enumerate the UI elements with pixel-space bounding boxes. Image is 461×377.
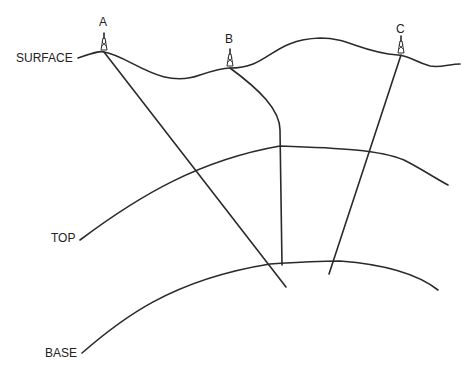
- well-b-label: B: [225, 32, 233, 46]
- derrick-icon: [227, 49, 233, 66]
- well-c-trajectory: [329, 55, 401, 274]
- well-c-label: C: [396, 22, 405, 36]
- derrick-icon: [398, 36, 404, 53]
- well-a-label: A: [99, 15, 107, 29]
- well-a-trajectory: [104, 52, 286, 287]
- well-b-trajectory: [230, 68, 282, 265]
- base-horizon-line: [82, 261, 438, 353]
- well-trajectory-diagram: SURFACE TOP BASE A B C: [0, 0, 461, 377]
- top-horizon-line: [80, 146, 448, 240]
- base-label: BASE: [45, 346, 77, 360]
- derrick-icon: [101, 33, 107, 50]
- top-label: TOP: [51, 231, 75, 245]
- surface-label: SURFACE: [16, 51, 73, 65]
